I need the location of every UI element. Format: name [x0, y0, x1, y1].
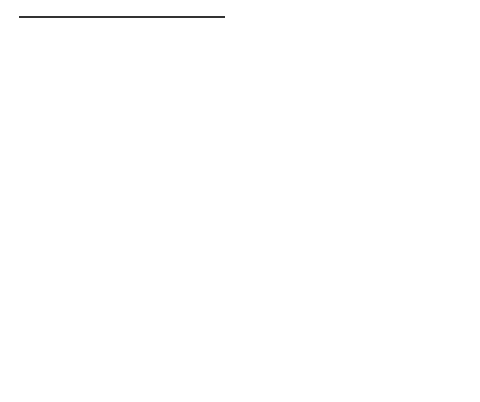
global-data-region-box: [19, 16, 226, 71]
